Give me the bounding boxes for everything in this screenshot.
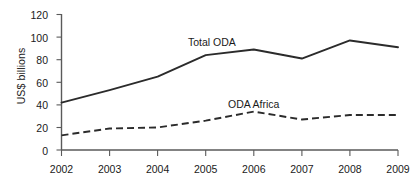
y-tick-label-80: 80 <box>20 54 48 66</box>
series-label-oda-africa: ODA Africa <box>228 98 279 110</box>
x-tick-label-2006: 2006 <box>234 163 274 175</box>
x-tick-label-2002: 2002 <box>42 163 82 175</box>
x-tick-label-2004: 2004 <box>138 163 178 175</box>
y-tick-label-0: 0 <box>20 145 48 157</box>
series-line-oda-africa <box>62 112 399 136</box>
y-tick-label-120: 120 <box>20 9 48 21</box>
y-tick-label-60: 60 <box>20 77 48 89</box>
x-tick-label-2008: 2008 <box>330 163 370 175</box>
y-axis-ticks <box>57 15 62 151</box>
x-tick-label-2009: 2009 <box>378 163 414 175</box>
y-tick-label-100: 100 <box>20 32 48 44</box>
series-line-total-oda <box>62 40 399 102</box>
x-tick-label-2003: 2003 <box>90 163 130 175</box>
y-tick-label-20: 20 <box>20 122 48 134</box>
y-tick-label-40: 40 <box>20 99 48 111</box>
x-tick-label-2005: 2005 <box>186 163 226 175</box>
x-tick-label-2007: 2007 <box>282 163 322 175</box>
series-label-total-oda: Total ODA <box>188 36 236 48</box>
x-axis-ticks <box>62 150 399 156</box>
